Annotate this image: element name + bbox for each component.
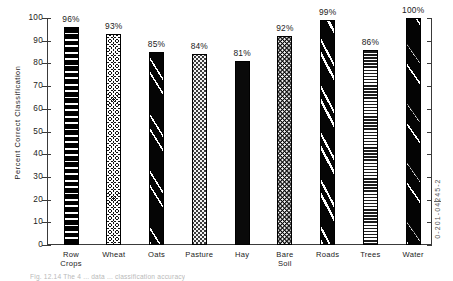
isbn-code: 0-201-04245-2 (434, 149, 441, 269)
y-tick-inner-20 (47, 200, 51, 201)
category-label-line: Soil (256, 259, 314, 268)
y-tick-label-0: 0 (17, 240, 43, 249)
y-tick-right-0 (427, 245, 432, 246)
bar (149, 52, 164, 245)
bar-value-label: 93% (94, 21, 134, 31)
y-tick-right-20 (427, 200, 432, 201)
y-tick-right-80 (427, 63, 432, 64)
bar-value-label: 85% (137, 39, 177, 49)
y-tick-label-80: 80 (17, 58, 43, 67)
y-tick-inner-10 (47, 222, 51, 223)
y-tick-right-50 (427, 132, 432, 133)
y-tick-label-70: 70 (17, 81, 43, 90)
y-tick-inner-40 (47, 154, 51, 155)
y-tick-right-70 (427, 86, 432, 87)
bar (192, 54, 207, 245)
bar (363, 50, 378, 245)
y-axis-title: Percent Correct Classification (13, 23, 22, 223)
y-tick-label-90: 90 (17, 36, 43, 45)
y-tick-label-20: 20 (17, 195, 43, 204)
y-tick-label-50: 50 (17, 127, 43, 136)
category-label-line: Crops (42, 259, 100, 268)
bar (277, 36, 292, 245)
bar-value-label: 86% (350, 37, 390, 47)
y-tick-inner-70 (47, 86, 51, 87)
figure-bar-chart: Percent Correct Classification 100908070… (0, 0, 453, 281)
y-tick-right-90 (427, 41, 432, 42)
bar (106, 34, 121, 245)
bar (64, 27, 79, 245)
y-tick-label-30: 30 (17, 172, 43, 181)
y-tick-label-100: 100 (17, 13, 43, 22)
y-tick-inner-60 (47, 109, 51, 110)
y-tick-inner-0 (47, 245, 51, 246)
bar-value-label: 84% (179, 41, 219, 51)
y-tick-label-60: 60 (17, 104, 43, 113)
y-tick-inner-30 (47, 177, 51, 178)
bar-value-label: 96% (51, 14, 91, 24)
y-tick-right-60 (427, 109, 432, 110)
y-tick-inner-80 (47, 63, 51, 64)
bar-value-label: 92% (265, 23, 305, 33)
bar-value-label: 81% (222, 48, 262, 58)
bar-value-label: 99% (308, 7, 348, 17)
figure-caption: Fig. 12.14 The 4 ... data ... classifica… (30, 273, 185, 281)
y-tick-right-30 (427, 177, 432, 178)
y-tick-right-10 (427, 222, 432, 223)
y-tick-inner-90 (47, 41, 51, 42)
y-tick-label-40: 40 (17, 149, 43, 158)
y-tick-label-10: 10 (17, 217, 43, 226)
y-tick-right-40 (427, 154, 432, 155)
bar-value-label: 100% (393, 5, 433, 15)
y-tick-right-100 (427, 18, 432, 19)
plot-area: 1009080706050403020100 96%RowCrops93%Whe… (47, 18, 432, 245)
bar (235, 61, 250, 245)
y-tick-inner-50 (47, 132, 51, 133)
bar (406, 18, 421, 245)
bar (320, 20, 335, 245)
